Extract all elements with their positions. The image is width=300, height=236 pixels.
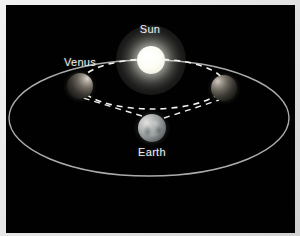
sun-body [137, 46, 165, 74]
sight-line-earth-to-venus-left [83, 98, 142, 116]
venus-body-right [211, 75, 237, 101]
venus-body-left [67, 73, 93, 99]
earth-body [138, 114, 166, 142]
earth-surface-mottle [138, 114, 166, 142]
sky-panel: Sun Venus Earth [6, 5, 295, 233]
sight-line-earth-to-venus-right [164, 100, 219, 118]
figure-canvas: Sun Venus Earth [0, 0, 300, 236]
